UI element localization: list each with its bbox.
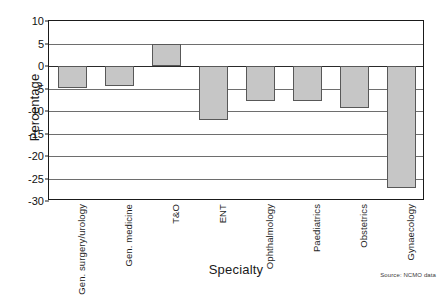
bar bbox=[152, 44, 181, 66]
plot-area: 1050-5-10-15-20-25-30 bbox=[48, 20, 424, 200]
y-tick-mark bbox=[45, 21, 49, 22]
bar bbox=[199, 66, 228, 120]
x-tick-label: Obstetrics bbox=[358, 204, 369, 248]
y-tick-mark bbox=[45, 43, 49, 44]
bar bbox=[340, 66, 369, 108]
x-axis-title: Specialty bbox=[48, 262, 424, 277]
y-tick-mark bbox=[45, 66, 49, 67]
y-tick-mark bbox=[45, 201, 49, 202]
bar bbox=[246, 66, 275, 101]
chart-figure: Percentage 1050-5-10-15-20-25-30 Gen. su… bbox=[0, 0, 444, 299]
y-tick-label: -5 bbox=[34, 83, 44, 95]
bar bbox=[293, 66, 322, 101]
y-tick-label: 0 bbox=[38, 60, 44, 72]
y-tick-mark bbox=[45, 88, 49, 89]
x-tick-label: Paediatrics bbox=[311, 204, 322, 252]
x-tick-label: Gen. medicine bbox=[123, 204, 134, 267]
x-tick-label: Gen. surgery/urology bbox=[76, 204, 87, 295]
y-tick-label: 10 bbox=[32, 15, 44, 27]
x-tick-label: ENT bbox=[217, 204, 228, 223]
bar bbox=[387, 66, 416, 188]
y-tick-mark bbox=[45, 111, 49, 112]
x-tick-label: T&O bbox=[170, 204, 181, 224]
gridline bbox=[49, 179, 423, 180]
y-tick-label: 5 bbox=[38, 38, 44, 50]
y-tick-label: -10 bbox=[28, 105, 44, 117]
gridline bbox=[49, 156, 423, 157]
bar bbox=[58, 66, 87, 88]
y-tick-mark bbox=[45, 156, 49, 157]
gridline bbox=[49, 134, 423, 135]
y-tick-label: -15 bbox=[28, 128, 44, 140]
x-tick-label: Ophthalmology bbox=[264, 204, 275, 269]
gridline bbox=[49, 44, 423, 45]
bar bbox=[105, 66, 134, 86]
gridline bbox=[49, 111, 423, 112]
y-tick-label: -20 bbox=[28, 150, 44, 162]
source-note: Source: NCMO data bbox=[380, 272, 436, 278]
y-tick-label: -30 bbox=[28, 195, 44, 207]
y-tick-mark bbox=[45, 178, 49, 179]
y-tick-mark bbox=[45, 133, 49, 134]
x-tick-label: Gynaecology bbox=[405, 204, 416, 261]
y-tick-label: -25 bbox=[28, 173, 44, 185]
